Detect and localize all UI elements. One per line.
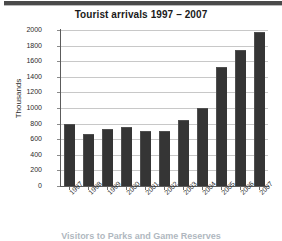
y-tick-label: 1000 [16, 104, 42, 111]
bar-1999 [102, 129, 113, 187]
y-tick-label: 1200 [16, 88, 42, 95]
y-tick-label: 1400 [16, 73, 42, 80]
bar-chart: Thousands 200018001600140012001000800600… [0, 0, 282, 241]
figure-caption: Visitors to Parks and Game Reserves [0, 231, 282, 241]
y-tick-label: 600 [16, 135, 42, 142]
y-tick-label: 0 [16, 182, 42, 189]
y-tick-label: 1600 [16, 57, 42, 64]
y-axis-line [60, 29, 61, 187]
bar-2005 [216, 67, 227, 187]
bar-2001 [140, 131, 151, 187]
bar-2004 [197, 108, 208, 187]
bar-2007 [254, 32, 265, 187]
y-tick-label: 2000 [16, 26, 42, 33]
gridline [60, 46, 268, 47]
y-tick-label: 800 [16, 120, 42, 127]
gridline [60, 30, 268, 31]
bar-2003 [178, 120, 189, 187]
page-canvas: Tourist arrivals 1997 – 2007 Thousands 2… [0, 0, 282, 241]
y-tick-label: 1800 [16, 42, 42, 49]
bar-2000 [121, 127, 132, 187]
y-tick-label: 200 [16, 166, 42, 173]
bar-1998 [83, 134, 94, 187]
y-tick-label: 400 [16, 151, 42, 158]
bar-1997 [64, 124, 75, 187]
bar-2002 [159, 131, 170, 187]
plot-area: 2000180016001400120010008006004002000 [60, 30, 268, 186]
bar-2006 [235, 50, 246, 188]
